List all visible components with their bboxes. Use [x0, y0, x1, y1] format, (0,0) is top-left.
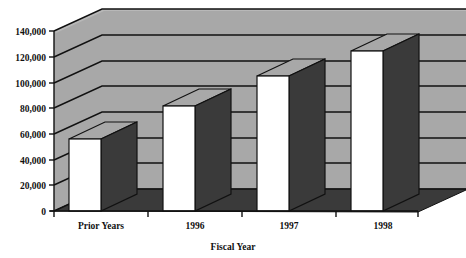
bar-side-face: [383, 34, 419, 211]
bar-side-face: [195, 89, 231, 211]
bar-side-face: [289, 59, 325, 211]
y-tick-label-140000: 140,000: [15, 27, 46, 37]
x-tick-label-prior-years: Prior Years: [78, 221, 124, 231]
y-tick-label-40000: 40,000: [20, 156, 46, 166]
bar-1996[interactable]: [163, 89, 231, 211]
x-tick-label-1997: 1997: [280, 221, 299, 231]
bar-1998[interactable]: [351, 34, 419, 211]
y-axis-ticks: [49, 31, 54, 211]
y-tick-label-0: 0: [41, 207, 46, 217]
x-tick-label-1998: 1998: [374, 221, 393, 231]
bar-front-face: [69, 139, 101, 211]
y-tick-label-20000: 20,000: [20, 181, 46, 191]
bar-chart-3d: 140,000 120,000 100,000 80,000 60,000 40…: [0, 0, 466, 258]
bar-front-face: [351, 51, 383, 211]
x-tick-label-1996: 1996: [186, 221, 205, 231]
chart-container: 140,000 120,000 100,000 80,000 60,000 40…: [0, 0, 466, 258]
y-tick-label-100000: 100,000: [15, 79, 46, 89]
y-tick-label-60000: 60,000: [20, 130, 46, 140]
x-axis-title: Fiscal Year: [211, 242, 257, 252]
bar-prior-years[interactable]: [69, 122, 137, 211]
y-tick-label-80000: 80,000: [20, 104, 46, 114]
y-tick-label-120000: 120,000: [15, 53, 46, 63]
bar-front-face: [257, 76, 289, 211]
bar-1997[interactable]: [257, 59, 325, 211]
bar-front-face: [163, 106, 195, 211]
